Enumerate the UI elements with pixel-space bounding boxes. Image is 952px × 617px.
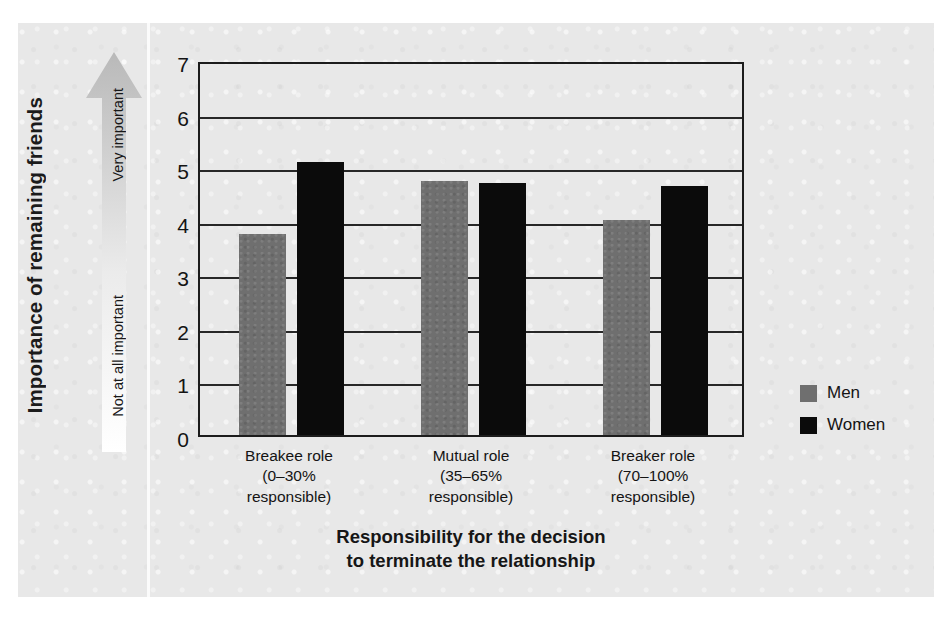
bar-men-2 — [421, 181, 468, 435]
category-label-line: Breakee role — [194, 446, 384, 466]
y-axis-tick-label: 3 — [177, 268, 189, 289]
category-label-line: responsible) — [376, 487, 566, 507]
y-axis-tick-label: 2 — [177, 321, 189, 342]
legend-item-women[interactable]: Women — [800, 415, 885, 435]
y-axis-tick-label: 5 — [177, 161, 189, 182]
x-axis-title-line-2: to terminate the relationship — [198, 549, 744, 573]
x-axis-title: Responsibility for the decision to termi… — [198, 525, 744, 573]
bar-women-2 — [479, 183, 526, 435]
category-label-line: responsible) — [194, 487, 384, 507]
category-label-line: Mutual role — [376, 446, 566, 466]
x-axis-category-label-1: Breakee role(0–30%responsible) — [194, 446, 384, 507]
bar-men-3 — [603, 220, 650, 435]
legend-item-men[interactable]: Men — [800, 383, 885, 403]
plot-area: 76543210 — [198, 62, 744, 437]
category-label-line: responsible) — [558, 487, 748, 507]
legend-label: Men — [827, 383, 860, 403]
figure-bar-chart: Importance of remaining friends Very imp… — [0, 0, 952, 617]
legend-swatch-women — [800, 417, 817, 434]
page-gutter-divider — [147, 23, 150, 597]
x-axis-category-label-2: Mutual role(35–65%responsible) — [376, 446, 566, 507]
scale-label-high: Very important — [110, 88, 126, 182]
y-axis-tick-label: 4 — [177, 214, 189, 235]
bar-women-3 — [661, 186, 708, 435]
y-axis-title-text: Importance of remaining friends — [23, 97, 47, 413]
category-label-line: (0–30% — [194, 466, 384, 486]
legend-swatch-men — [800, 385, 817, 402]
bar-women-1 — [297, 162, 344, 435]
x-axis-category-label-3: Breaker role(70–100%responsible) — [558, 446, 748, 507]
y-axis-tick-label: 1 — [177, 375, 189, 396]
category-label-line: Breaker role — [558, 446, 748, 466]
y-axis-tick-label: 0 — [177, 429, 189, 450]
legend: MenWomen — [800, 383, 885, 435]
gridline — [200, 170, 742, 172]
legend-label: Women — [827, 415, 885, 435]
y-axis-tick-label: 6 — [177, 107, 189, 128]
x-axis-title-line-1: Responsibility for the decision — [198, 525, 744, 549]
scale-label-low: Not at all important — [110, 295, 126, 417]
category-label-line: (35–65% — [376, 466, 566, 486]
bar-men-1 — [239, 234, 286, 435]
gridline — [200, 117, 742, 119]
category-label-line: (70–100% — [558, 466, 748, 486]
y-axis-title: Importance of remaining friends — [0, 60, 70, 450]
y-axis-tick-label: 7 — [177, 54, 189, 75]
